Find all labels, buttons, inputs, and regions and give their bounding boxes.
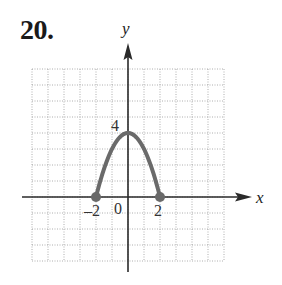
right-endpoint-dot: [155, 192, 165, 202]
y-axis-label: y: [120, 19, 130, 38]
x-tick-2: 2: [154, 202, 162, 219]
labels: y x –2 0 2 4: [83, 19, 264, 219]
left-endpoint-dot: [91, 192, 101, 202]
y-tick-4: 4: [111, 117, 119, 134]
x-tick-neg2: –2: [83, 202, 100, 219]
axes: [22, 43, 252, 272]
graph: y x –2 0 2 4: [0, 0, 282, 285]
origin-label: 0: [114, 200, 122, 217]
x-axis-label: x: [255, 188, 264, 207]
